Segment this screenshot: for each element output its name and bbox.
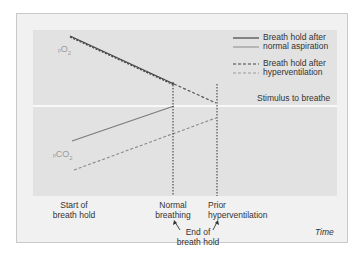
time-axis-label: Time bbox=[315, 228, 334, 238]
po2-main: O bbox=[61, 44, 68, 54]
legend-label-1b: normal aspiration bbox=[263, 42, 328, 52]
normal-label-line2: breathing bbox=[145, 211, 201, 221]
po2-hyper-line bbox=[70, 37, 174, 85]
pco2-hyper-line bbox=[74, 118, 216, 170]
po2-label: pO2 bbox=[58, 45, 71, 58]
prior-hyperventilation-label: Prior hyperventilation bbox=[208, 201, 268, 220]
stimulus-label: Stimulus to breathe bbox=[257, 94, 330, 104]
po2-sub: 2 bbox=[68, 50, 71, 56]
pco2-sub: 2 bbox=[69, 155, 72, 161]
pco2-normal-line bbox=[72, 106, 174, 141]
po2-normal-line bbox=[70, 36, 174, 84]
normal-breathing-label: Normal breathing bbox=[145, 201, 201, 220]
start-label-line2: breath hold bbox=[46, 211, 102, 221]
end-label-line2: breath hold bbox=[170, 238, 226, 248]
po2-hyper-line-ext bbox=[174, 84, 216, 103]
pco2-main: CO bbox=[56, 149, 70, 159]
end-breath-hold-label: End of breath hold bbox=[170, 228, 226, 247]
prior-label-line2: hyperventilation bbox=[208, 211, 268, 221]
start-label: Start of breath hold bbox=[46, 201, 102, 220]
legend-label-2b: hyperventilation bbox=[263, 68, 323, 78]
pco2-label: pCO2 bbox=[53, 150, 73, 163]
